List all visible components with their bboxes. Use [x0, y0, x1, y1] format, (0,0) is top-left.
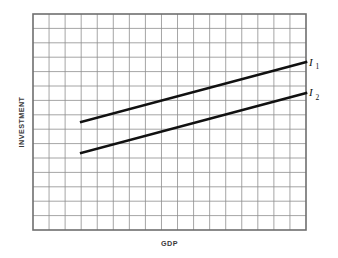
investment-curve-1-label-subscript: 1: [316, 62, 320, 71]
investment-curve-2-label-subscript: 2: [316, 93, 320, 102]
x-axis-label: GDP: [161, 239, 178, 248]
chart-canvas: I 1 I 2 GDP INVESTMENT: [0, 0, 338, 258]
investment-gdp-figure: I 1 I 2 GDP INVESTMENT: [0, 0, 338, 258]
y-axis-label: INVESTMENT: [17, 96, 26, 147]
